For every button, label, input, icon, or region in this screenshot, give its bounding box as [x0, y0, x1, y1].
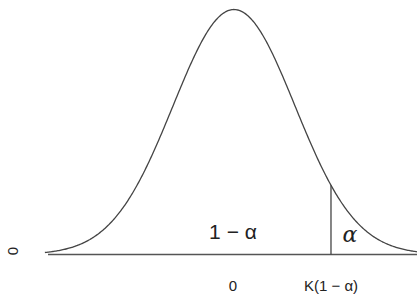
normal-density-figure — [0, 0, 419, 302]
x-tick-zero: 0 — [229, 277, 237, 294]
y-axis-zero-label: 0 — [4, 247, 21, 255]
tail-area-label: α — [343, 222, 358, 247]
body-area-label: 1 − α — [209, 220, 257, 244]
density-curve — [45, 10, 417, 253]
x-tick-critical-value: K(1 − α) — [304, 277, 358, 294]
